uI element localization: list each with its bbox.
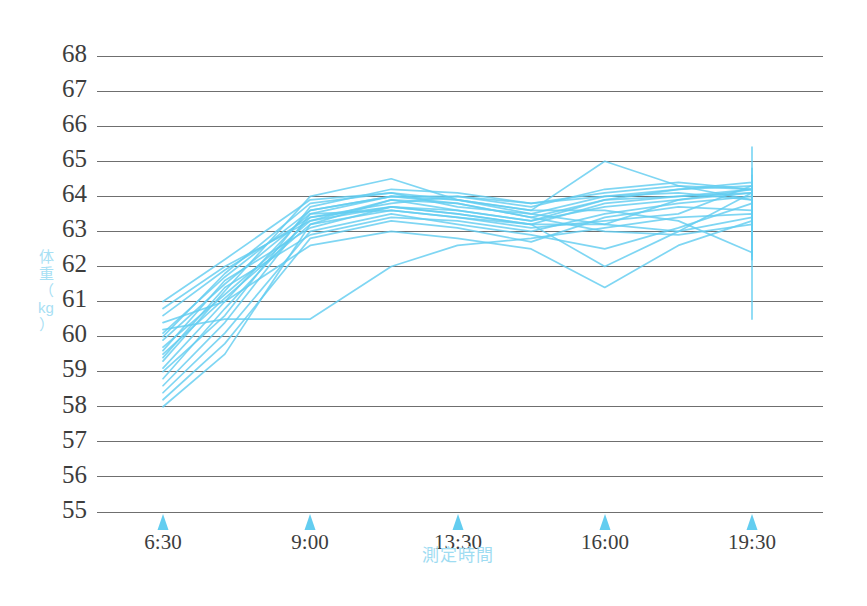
y-axis-title-char: ）	[39, 316, 54, 333]
y-axis-tick-label: 66	[62, 110, 87, 137]
data-series-line	[163, 182, 752, 315]
y-axis-title-char: （	[39, 282, 54, 299]
data-series-lines	[163, 147, 752, 407]
y-axis-title-char: 体	[39, 248, 54, 265]
x-axis-tick-marker	[453, 514, 464, 530]
y-axis-tick-label: 55	[62, 496, 87, 523]
y-axis-tick-label: 63	[62, 215, 87, 242]
y-axis-tick-label: 61	[62, 285, 87, 312]
x-axis-tick-label: 16:00	[581, 530, 629, 554]
x-axis-tick-label: 19:30	[728, 530, 776, 554]
y-axis-tick-label: 58	[62, 391, 87, 418]
y-axis-tick-label: 59	[62, 355, 87, 382]
y-axis-tick-label: 68	[62, 40, 87, 67]
x-axis-tick-marker	[158, 514, 169, 530]
y-axis-tick-label: 60	[62, 320, 87, 347]
x-axis-tick-label: 9:00	[291, 530, 328, 554]
y-axis-title-char: kg	[38, 299, 54, 316]
y-axis-title-char: 重	[39, 265, 54, 282]
y-axis-tick-labels: 6867666564636261605958575655	[62, 40, 88, 523]
y-axis-title: 体重（kg）	[38, 248, 54, 333]
data-series-line	[163, 207, 752, 400]
x-axis-title: 測定時間	[422, 546, 494, 565]
x-axis-tick-marker	[305, 514, 316, 530]
y-axis-tick-label: 65	[62, 145, 87, 172]
y-axis-tick-label: 62	[62, 250, 87, 277]
y-axis-tick-label: 64	[62, 180, 88, 207]
y-axis-tick-label: 67	[62, 75, 87, 102]
y-axis-tick-label: 56	[62, 461, 87, 488]
y-axis-tick-label: 57	[62, 426, 87, 453]
x-axis-tick-markers	[158, 514, 758, 530]
data-series-line	[163, 196, 752, 357]
weight-time-line-chart: 6867666564636261605958575655 6:309:0013:…	[0, 0, 867, 606]
x-axis-tick-marker	[600, 514, 611, 530]
x-axis-tick-marker	[747, 514, 758, 530]
x-axis-tick-label: 6:30	[144, 530, 181, 554]
chart-canvas: 6867666564636261605958575655 6:309:0013:…	[0, 0, 867, 606]
